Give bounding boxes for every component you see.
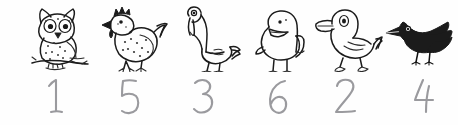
crow-sketch-icon <box>378 2 454 72</box>
digit-four-glyph <box>402 70 446 120</box>
bird-number-worksheet: 1 5 3 6 2 <box>0 0 458 125</box>
number-labels-row: 1 5 3 6 2 <box>0 70 458 125</box>
owl-sketch-icon <box>22 2 98 72</box>
hen-sketch-icon <box>96 2 172 72</box>
duck-sketch-icon <box>310 2 386 72</box>
number-label-owl: 1 <box>26 70 86 125</box>
goose-sketch-icon <box>168 2 244 72</box>
digit-two-glyph <box>324 70 368 120</box>
number-label-chick: 6 <box>248 70 308 125</box>
number-label-duck: 2 <box>316 70 376 125</box>
digit-five-glyph <box>108 70 152 120</box>
digit-one-glyph <box>34 70 78 120</box>
bird-drawings-row <box>0 0 458 72</box>
number-label-hen: 5 <box>100 70 160 125</box>
digit-three-glyph <box>182 70 226 120</box>
number-label-goose: 3 <box>174 70 234 125</box>
number-label-crow: 4 <box>394 70 454 125</box>
digit-six-glyph <box>256 70 300 120</box>
chick-sketch-icon <box>244 2 320 72</box>
